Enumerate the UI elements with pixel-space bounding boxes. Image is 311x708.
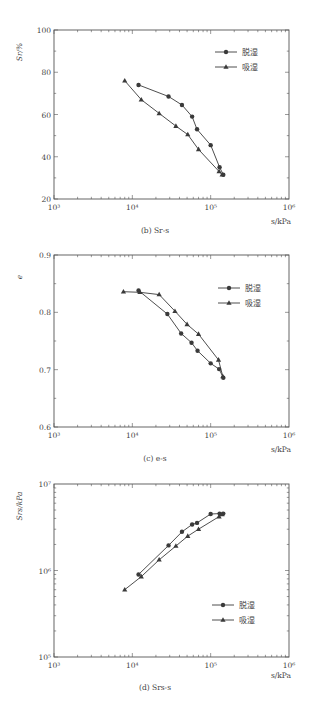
legend: 脱湿吸湿 <box>215 47 258 72</box>
point-marker-triangle-icon <box>157 557 162 562</box>
y-axis-label: e <box>15 274 24 279</box>
y-tick-label: 10⁶ <box>38 567 51 576</box>
point-marker-circle-icon <box>208 361 212 365</box>
x-axis-label: s/kPa <box>271 445 292 454</box>
point-marker-triangle-icon <box>122 587 127 592</box>
chart-srs-s: 10³10⁴10⁵10⁶10⁵10⁶10⁷Srs/kPas/kPa(d) Srs… <box>0 468 311 708</box>
point-marker-triangle-icon <box>173 123 178 128</box>
point-marker-circle-icon <box>208 512 212 516</box>
point-marker-circle-icon <box>180 103 184 107</box>
point-marker-triangle-icon <box>196 526 201 531</box>
y-tick-label: 0.6 <box>39 423 51 432</box>
point-marker-circle-icon <box>136 83 140 87</box>
x-tick-label: 10⁴ <box>126 431 139 440</box>
y-tick-label: 10⁷ <box>38 480 51 489</box>
point-marker-circle-icon <box>195 127 199 131</box>
point-marker-circle-icon <box>190 114 194 118</box>
point-marker-circle-icon <box>166 94 170 98</box>
point-marker-circle-icon <box>195 521 199 525</box>
x-tick-label: 10⁵ <box>204 203 217 212</box>
legend-label: 脱湿 <box>239 600 255 610</box>
series-wetting <box>122 512 225 592</box>
point-marker-triangle-icon <box>122 78 127 83</box>
y-tick-label: 40 <box>41 153 51 162</box>
y-tick-label: 60 <box>41 111 51 120</box>
chart-sr-s: 10³10⁴10⁵10⁶20406080100Sr/%s/kPa(b) Sr-s… <box>0 0 311 240</box>
point-marker-circle-icon <box>217 165 221 169</box>
legend-label: 脱湿 <box>245 283 261 293</box>
plot-frame <box>54 484 289 657</box>
y-tick-label: 0.7 <box>39 366 51 375</box>
point-marker-circle-icon <box>165 312 169 316</box>
point-marker-circle-icon <box>208 143 212 147</box>
x-axis-label: s/kPa <box>271 671 292 680</box>
point-marker-circle-icon <box>190 522 194 526</box>
point-marker-circle-icon <box>166 543 170 547</box>
point-marker-triangle-icon <box>185 132 190 137</box>
point-marker-circle-icon <box>195 349 199 353</box>
legend-marker-triangle-icon <box>226 300 231 305</box>
legend-label: 吸湿 <box>242 63 258 72</box>
chart-panel-b: 10³10⁴10⁵10⁶20406080100Sr/%s/kPa(b) Sr-s… <box>0 0 311 240</box>
y-tick-label: 0.8 <box>39 308 51 317</box>
point-marker-circle-icon <box>179 331 183 335</box>
point-marker-triangle-icon <box>185 533 190 538</box>
legend-marker-triangle-icon <box>220 617 225 622</box>
figure-caption: (d) Srs-s <box>139 683 171 692</box>
y-axis-label: Sr/% <box>15 43 24 61</box>
point-marker-triangle-icon <box>121 289 126 294</box>
series-drying <box>136 288 225 380</box>
y-axis-label: Srs/kPa <box>15 492 24 521</box>
legend-label: 吸湿 <box>239 616 255 625</box>
x-tick-label: 10³ <box>48 203 61 212</box>
y-tick-label: 80 <box>41 68 51 77</box>
x-tick-label: 10⁶ <box>283 431 296 440</box>
legend-marker-circle-icon <box>224 50 228 54</box>
legend: 脱湿吸湿 <box>218 283 261 308</box>
y-tick-label: 20 <box>41 195 51 204</box>
x-tick-label: 10⁵ <box>204 661 217 670</box>
chart-e-s: 10³10⁴10⁵10⁶0.60.70.80.9es/kPa(c) e-s脱湿吸… <box>0 240 311 468</box>
y-tick-label: 100 <box>37 26 52 35</box>
x-tick-label: 10³ <box>48 431 61 440</box>
legend-label: 吸湿 <box>245 299 261 308</box>
x-axis-label: s/kPa <box>271 217 292 226</box>
x-tick-label: 10⁶ <box>283 203 296 212</box>
point-marker-circle-icon <box>189 341 193 345</box>
chart-panel-d: 10³10⁴10⁵10⁶10⁵10⁶10⁷Srs/kPas/kPa(d) Srs… <box>0 468 311 708</box>
x-tick-label: 10⁵ <box>204 431 217 440</box>
x-tick-label: 10⁴ <box>126 661 139 670</box>
chart-panel-c: 10³10⁴10⁵10⁶0.60.70.80.9es/kPa(c) e-s脱湿吸… <box>0 240 311 468</box>
point-marker-triangle-icon <box>157 111 162 116</box>
legend-marker-circle-icon <box>221 603 225 607</box>
plot-frame <box>54 255 289 427</box>
series-wetting <box>122 78 225 177</box>
legend-label: 脱湿 <box>242 47 258 57</box>
x-tick-label: 10⁴ <box>126 203 139 212</box>
point-marker-triangle-icon <box>173 543 178 548</box>
legend-marker-triangle-icon <box>223 64 228 69</box>
point-marker-circle-icon <box>180 530 184 534</box>
x-tick-label: 10⁶ <box>283 661 296 670</box>
legend: 脱湿吸湿 <box>212 600 255 625</box>
y-tick-label: 10⁵ <box>38 653 51 662</box>
figure-caption: (b) Sr-s <box>141 226 169 235</box>
y-tick-label: 0.9 <box>39 251 51 260</box>
figure-caption: (c) e-s <box>143 454 166 463</box>
legend-marker-circle-icon <box>227 286 231 290</box>
x-tick-label: 10³ <box>48 661 61 670</box>
